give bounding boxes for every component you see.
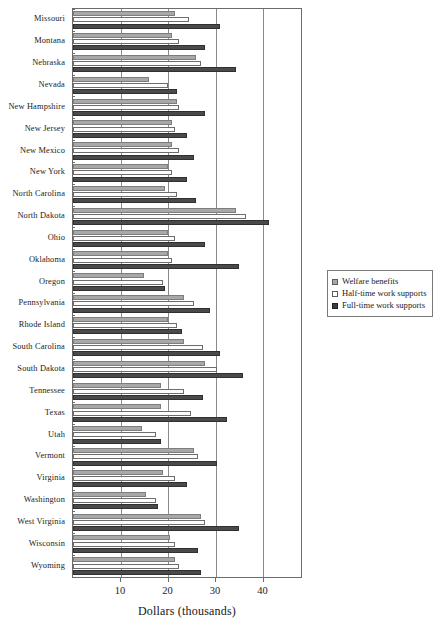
- bar-welfare: [73, 142, 172, 147]
- bar-half: [73, 61, 201, 66]
- bar-full: [73, 177, 187, 182]
- x-tick-10: [120, 578, 121, 582]
- y-axis-label-ohio: Ohio: [48, 233, 65, 242]
- legend-item-full-time-work-supports: Full-time work supports: [332, 300, 427, 311]
- y-tick: [72, 9, 75, 10]
- bar-welfare: [73, 11, 175, 16]
- bar-welfare: [73, 273, 144, 278]
- legend-label-full-time-work-supports: Full-time work supports: [342, 300, 425, 311]
- y-tick: [72, 380, 75, 381]
- bar-half: [73, 105, 179, 110]
- x-tick-label-20: 20: [153, 585, 183, 597]
- y-axis-label-vermont: Vermont: [35, 451, 65, 460]
- y-tick: [72, 359, 75, 360]
- bar-half: [73, 498, 156, 503]
- bar-half: [73, 323, 177, 328]
- bar-full: [73, 329, 182, 334]
- bar-welfare: [73, 120, 172, 125]
- y-axis-label-south-dakota: South Dakota: [17, 364, 65, 373]
- y-tick: [72, 511, 75, 512]
- bar-full: [73, 373, 243, 378]
- bar-full: [73, 286, 165, 291]
- bar-group: [73, 293, 302, 315]
- bar-welfare: [73, 535, 170, 540]
- bar-half: [73, 39, 179, 44]
- y-axis-label-montana: Montana: [34, 36, 65, 45]
- y-axis-label-north-carolina: North Carolina: [12, 189, 65, 198]
- y-axis-label-west-virginia: West Virginia: [17, 517, 65, 526]
- bar-half: [73, 542, 175, 547]
- bar-rows: [73, 9, 302, 577]
- chart-legend: Welfare benefits Half-time work supports…: [327, 270, 433, 317]
- bar-welfare: [73, 164, 168, 169]
- bar-welfare: [73, 33, 172, 38]
- bar-welfare: [73, 208, 236, 213]
- bar-half: [73, 564, 179, 569]
- y-axis-label-pennsylvania: Pennsylvania: [19, 298, 65, 307]
- bar-half: [73, 192, 177, 197]
- y-tick: [72, 249, 75, 250]
- bar-half: [73, 236, 175, 241]
- bar-group: [73, 227, 302, 249]
- bar-group: [73, 140, 302, 162]
- bar-welfare: [73, 492, 146, 497]
- bar-group: [73, 206, 302, 228]
- bar-group: [73, 424, 302, 446]
- bar-welfare: [73, 230, 168, 235]
- bar-full: [73, 351, 220, 356]
- y-tick: [72, 533, 75, 534]
- x-tick-label-30: 30: [200, 585, 230, 597]
- bar-welfare: [73, 99, 177, 104]
- bar-group: [73, 271, 302, 293]
- bar-welfare: [73, 557, 175, 562]
- y-axis-labels: MissouriMontanaNebraskaNevadaNew Hampshi…: [0, 9, 69, 577]
- y-axis-label-new-york: New York: [30, 167, 65, 176]
- bar-full: [73, 308, 210, 313]
- legend-swatch-welfare-icon: [332, 279, 338, 285]
- bar-full: [73, 264, 239, 269]
- y-tick: [72, 206, 75, 207]
- y-tick: [72, 468, 75, 469]
- y-tick: [72, 555, 75, 556]
- bar-welfare: [73, 317, 168, 322]
- y-tick: [72, 96, 75, 97]
- legend-label-half-time-work-supports: Half-time work supports: [342, 288, 427, 299]
- bar-group: [73, 31, 302, 53]
- bar-half: [73, 258, 172, 263]
- bar-half: [73, 148, 179, 153]
- bar-half: [73, 476, 175, 481]
- y-tick: [72, 315, 75, 316]
- y-tick: [72, 293, 75, 294]
- bar-half: [73, 127, 175, 132]
- bar-half: [73, 83, 168, 88]
- y-tick: [72, 227, 75, 228]
- y-axis-label-new-mexico: New Mexico: [20, 146, 65, 155]
- bar-full: [73, 24, 220, 29]
- bar-group: [73, 446, 302, 468]
- bar-half: [73, 345, 203, 350]
- y-tick: [72, 75, 75, 76]
- bar-group: [73, 533, 302, 555]
- bar-full: [73, 133, 187, 138]
- y-axis-label-rhode-island: Rhode Island: [19, 320, 65, 329]
- bar-full: [73, 198, 196, 203]
- bar-full: [73, 439, 161, 444]
- y-tick: [72, 424, 75, 425]
- bar-group: [73, 75, 302, 97]
- bar-group: [73, 96, 302, 118]
- legend-swatch-half-time-icon: [332, 291, 338, 297]
- bar-half: [73, 520, 205, 525]
- y-axis-label-washington: Washington: [24, 495, 65, 504]
- x-tick-label-10: 10: [105, 585, 135, 597]
- bar-full: [73, 242, 205, 247]
- y-tick: [72, 31, 75, 32]
- y-tick: [72, 337, 75, 338]
- y-axis-label-oregon: Oregon: [39, 277, 65, 286]
- bar-welfare: [73, 77, 149, 82]
- y-axis-label-oklahoma: Oklahoma: [29, 255, 65, 264]
- x-tick-40: [263, 578, 264, 582]
- bar-group: [73, 337, 302, 359]
- legend-item-welfare-benefits: Welfare benefits: [332, 276, 427, 287]
- bar-welfare: [73, 514, 201, 519]
- bar-group: [73, 249, 302, 271]
